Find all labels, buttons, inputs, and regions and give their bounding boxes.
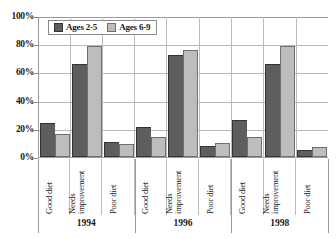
category-label: Good diet xyxy=(45,160,54,214)
bar-pair-1994-2 xyxy=(103,17,135,157)
category-label-group-1994: Good dietNeeds improvementPoor diet xyxy=(38,159,135,215)
year-label-1996: 1996 xyxy=(135,216,232,234)
legend-label-ages-2-5: Ages 2-5 xyxy=(66,23,97,32)
category-label-cell: Needs improvement xyxy=(264,159,297,215)
legend-item-ages-6-9: Ages 6-9 xyxy=(107,23,150,32)
x-axis-year-labels: 199419961998 xyxy=(38,216,328,234)
category-label-cell: Good diet xyxy=(38,159,70,215)
category-label-cell: Good diet xyxy=(135,159,167,215)
category-label: Good diet xyxy=(141,160,150,214)
bar-ages-2-5-1994-0 xyxy=(40,123,55,157)
bar-pair-1996-2 xyxy=(200,17,232,157)
bar-ages-6-9-1996-0 xyxy=(151,137,166,157)
category-label-cell: Poor diet xyxy=(102,159,134,215)
category-label-cell: Good diet xyxy=(231,159,264,215)
category-label-cell: Poor diet xyxy=(296,159,328,215)
y-axis-tick-label: 40% xyxy=(0,97,34,107)
y-axis-tick-label: 80% xyxy=(0,40,34,50)
bar-ages-6-9-1996-2 xyxy=(215,143,230,157)
y-axis-tick-label: 20% xyxy=(0,125,34,135)
x-axis-category-labels: Good dietNeeds improvementPoor dietGood … xyxy=(38,159,328,215)
bar-ages-6-9-1994-2 xyxy=(119,144,134,157)
bar-ages-6-9-1998-1 xyxy=(280,46,295,157)
bar-group-1998 xyxy=(232,17,328,157)
bar-groups xyxy=(39,17,328,157)
group-separator xyxy=(135,159,136,233)
bar-pair-1994-0 xyxy=(39,17,71,157)
bar-pair-1996-1 xyxy=(167,17,199,157)
category-label: Good diet xyxy=(238,160,247,214)
category-label: Needs improvement xyxy=(262,160,280,214)
bar-ages-2-5-1998-0 xyxy=(232,120,247,157)
bar-pair-1998-0 xyxy=(232,17,264,157)
y-axis-tick-label: 0% xyxy=(0,153,34,163)
bar-pair-1994-1 xyxy=(71,17,103,157)
category-label-group-1996: Good dietNeeds improvementPoor diet xyxy=(135,159,232,215)
y-axis-tick-label: 60% xyxy=(0,68,34,78)
group-separator xyxy=(38,159,39,233)
category-label: Poor diet xyxy=(303,160,312,214)
legend-swatch-icon-ages-6-9 xyxy=(107,23,116,32)
bar-group-1996 xyxy=(135,17,231,157)
legend-item-ages-2-5: Ages 2-5 xyxy=(54,23,97,32)
bar-ages-2-5-1998-1 xyxy=(265,64,280,157)
bar-ages-6-9-1998-0 xyxy=(247,137,262,157)
bar-ages-2-5-1996-1 xyxy=(168,55,183,157)
year-label-1998: 1998 xyxy=(231,216,328,234)
bar-ages-2-5-1998-2 xyxy=(297,150,312,157)
category-label: Poor diet xyxy=(206,160,215,214)
category-label: Poor diet xyxy=(109,160,118,214)
category-label-cell: Poor diet xyxy=(199,159,231,215)
bar-group-1994 xyxy=(39,17,135,157)
y-axis-tick-label: 100% xyxy=(0,12,34,22)
bar-pair-1996-0 xyxy=(135,17,167,157)
bar-ages-2-5-1996-0 xyxy=(136,127,151,157)
bar-ages-2-5-1996-2 xyxy=(200,146,215,157)
bar-ages-6-9-1998-2 xyxy=(312,147,327,157)
group-separator xyxy=(231,159,232,233)
legend: Ages 2-5 Ages 6-9 xyxy=(48,20,157,35)
bar-ages-6-9-1994-0 xyxy=(55,134,70,157)
legend-swatch-icon-ages-2-5 xyxy=(54,23,63,32)
bar-ages-2-5-1994-2 xyxy=(104,142,119,158)
bar-ages-6-9-1996-1 xyxy=(183,50,198,157)
category-label-group-1998: Good dietNeeds improvementPoor diet xyxy=(231,159,328,215)
category-label-cell: Needs improvement xyxy=(70,159,102,215)
year-label-1994: 1994 xyxy=(38,216,135,234)
bar-ages-2-5-1994-1 xyxy=(72,64,87,157)
category-label: Needs improvement xyxy=(68,160,86,214)
category-label: Needs improvement xyxy=(165,160,183,214)
bar-ages-6-9-1994-1 xyxy=(87,46,102,157)
plot-area xyxy=(38,17,328,158)
bar-pair-1998-2 xyxy=(297,17,328,157)
bar-pair-1998-1 xyxy=(264,17,296,157)
bar-chart: 0%20%40%60%80%100% Good dietNeeds improv… xyxy=(0,0,336,239)
legend-label-ages-6-9: Ages 6-9 xyxy=(119,23,150,32)
group-separator xyxy=(328,159,329,233)
category-label-cell: Needs improvement xyxy=(167,159,199,215)
